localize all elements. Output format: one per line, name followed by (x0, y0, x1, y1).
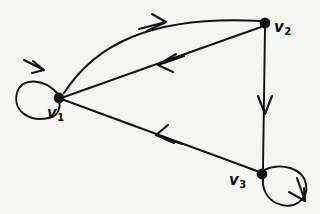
node-label-v3-text: v (229, 171, 239, 189)
node-v1[interactable] (54, 93, 65, 104)
node-label-v2-subscript: 2 (284, 26, 291, 37)
node-label-v2: v2 (274, 20, 291, 35)
node-label-v3: v3 (229, 173, 246, 188)
arrowhead-self-loop-v1 (24, 60, 44, 73)
node-label-v2-text: v (274, 18, 284, 36)
node-label-v1: v1 (47, 106, 64, 121)
arrowhead-v2-to-v1 (158, 54, 184, 72)
edge-v2-to-v3 (263, 28, 265, 169)
arrowhead-v2-to-v3 (258, 96, 272, 114)
node-label-v1-text: v (47, 104, 57, 122)
edge-v1-to-v2-curved (64, 20, 261, 93)
node-label-v3-subscript: 3 (239, 179, 246, 190)
node-v3[interactable] (257, 169, 268, 180)
node-label-v1-subscript: 1 (57, 112, 64, 123)
node-v2[interactable] (260, 18, 271, 29)
diagram-canvas: v1 v2 v3 (0, 0, 320, 214)
